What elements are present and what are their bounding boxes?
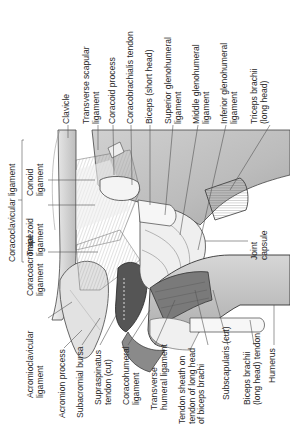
- label-middle-glenohumeral-ligament: Middle glenohumeral ligament: [192, 44, 211, 124]
- label-triceps-brachii-long-head: Triceps brachii (long head): [250, 68, 269, 124]
- label-inferior-glenohumeral-ligament: Inferior glenohumeral ligament: [220, 43, 239, 124]
- label-superior-glenohumeral-ligament: Superior glenohumeral ligament: [164, 37, 183, 124]
- label-coracoid-process: Coracoid process: [108, 57, 118, 124]
- label-subscapularis-cut: Subscapularis (cut): [222, 326, 232, 400]
- label-biceps-short-head: Biceps (short head): [145, 49, 155, 124]
- label-joint-capsule: Joint capsule: [250, 230, 269, 260]
- label-coracohumeral-ligament: Coracohumeral ligament: [122, 346, 141, 405]
- label-conoid-ligament: Conoid ligament: [26, 164, 45, 196]
- label-supraspinatus-tendon-cut: Supraspinatus tendon (cut): [94, 350, 113, 405]
- label-coracobrachialis-tendon: Coracobrachialis tendon: [126, 31, 136, 124]
- label-tendon-sheath-biceps: Tendon sheath on tendon of long head of …: [178, 348, 207, 424]
- label-humerus: Humerus: [268, 348, 278, 383]
- label-transverse-scapular-ligament: Transverse scapular ligament: [82, 46, 101, 124]
- label-transverse-humeral-ligament: Transverse humeral ligament: [150, 344, 169, 410]
- label-coracoacromial-ligament: Coracoacromial ligament: [26, 236, 45, 296]
- label-acromioclavicular-ligament: Acromioclavicular ligament: [26, 331, 45, 398]
- label-biceps-long-head-tendon: Biceps brachii (long head) tendon: [243, 333, 262, 405]
- label-subacromial-bursa: Subacromial bursa: [76, 346, 86, 418]
- coracoid-process: [100, 176, 140, 200]
- shoulder-ligament-diagram: Clavicle Transverse scapular ligament Co…: [0, 0, 290, 439]
- label-clavicle: Clavicle: [62, 94, 72, 124]
- label-coracoclavicular-ligament: Coracoclavicular ligament: [8, 164, 18, 262]
- coracoclavicular-bracket: [18, 140, 24, 262]
- label-acromion-process: Acromion process: [58, 349, 68, 418]
